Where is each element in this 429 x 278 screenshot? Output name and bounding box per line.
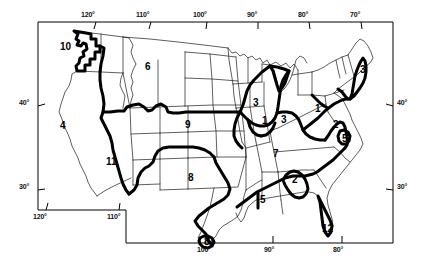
axis-tick-label-bottom-1: 110°: [107, 213, 120, 220]
region-label-3-new-england: 3: [360, 65, 366, 75]
axis-tick-label-right-0: 40°: [397, 99, 407, 106]
axis-tick-label-bottom-4: 80°: [333, 246, 343, 253]
region-label-8-south-texas: 8: [204, 237, 210, 247]
axis-tick-label-left-0: 40°: [19, 99, 29, 106]
region-label-11-southwest: 11: [106, 157, 117, 167]
region-label-8-southern-plains: 8: [188, 173, 194, 183]
region-label-3-iowa: 3: [253, 98, 259, 108]
region-label-3-indiana: 3: [281, 115, 287, 125]
region-label-12-florida: 12: [322, 224, 333, 234]
axis-tick-label-bottom-0: 120°: [33, 213, 47, 220]
region-label-2-virginia: 2: [333, 120, 339, 130]
region-label-10-pacific-northwest: 10: [60, 42, 71, 52]
axis-tick-label-top-1: 110°: [136, 11, 149, 18]
region-label-2-alabama-georgia: 2: [292, 175, 298, 185]
region-label-1-illinois: 1: [262, 116, 268, 126]
axis-tick-label-top-0: 120°: [81, 11, 95, 18]
region-label-4-california-nevada: 4: [60, 121, 66, 131]
region-label-7-tennessee-valley: 7: [273, 149, 279, 159]
region-label-5-mississippi: 5: [260, 195, 266, 205]
map-figure: 120° 110° 100° 90° 80° 70° 120° 110° 100…: [0, 0, 429, 278]
region-label-9-central-plains: 9: [185, 120, 191, 130]
axis-tick-label-top-4: 80°: [298, 11, 308, 18]
axis-tick-label-left-1: 30°: [19, 183, 29, 190]
axis-tick-label-top-2: 100°: [193, 11, 207, 18]
axis-tick-label-right-1: 30°: [397, 183, 407, 190]
axis-tick-label-top-3: 90°: [247, 11, 257, 18]
region-label-5-north-carolina-coast: 5: [342, 134, 348, 144]
axis-tick-label-top-5: 70°: [350, 11, 360, 18]
region-label-1-ohio-pennsylvania: 1: [315, 104, 321, 114]
region-label-6-northern-rockies: 6: [145, 62, 151, 72]
axis-tick-label-bottom-2: 100°: [197, 246, 211, 253]
axis-tick-label-bottom-3: 90°: [264, 246, 274, 253]
